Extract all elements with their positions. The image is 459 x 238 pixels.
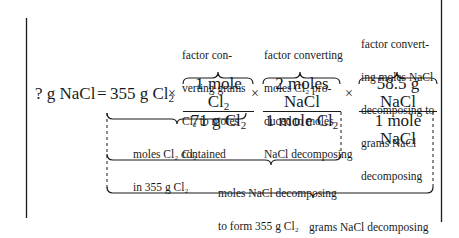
bottom-note-3: grams NaCl decomposing to produce 355 g …	[309, 200, 428, 238]
factor-1: 1 mole Cl2 71 g Cl2	[183, 75, 254, 130]
note-line: factor convert-	[361, 39, 434, 50]
note-line: moles Cl₂ contained	[133, 149, 226, 160]
factor-3-denominator: 1 mole NaCl	[359, 112, 437, 148]
den-text: 1 mole Cl	[266, 111, 333, 130]
den-sub: 2	[241, 119, 247, 131]
num-text: 2 moles NaCl	[275, 74, 328, 111]
den-text: 1 mole NaCl	[375, 111, 422, 148]
equals-sign: =	[97, 85, 107, 103]
den-sub: 2	[333, 119, 339, 131]
note-line: factor con-	[182, 50, 246, 61]
note-line: decomposing	[361, 171, 434, 182]
given-quantity: 355 g Cl2	[110, 85, 174, 103]
num-text: 58.5 g NaCl	[377, 74, 420, 111]
note-line: factor converting	[264, 50, 352, 61]
factor-3: 58.5 g NaCl 1 mole NaCl	[359, 75, 437, 148]
times-text: ×	[251, 86, 259, 101]
bottom-note-1: moles Cl₂ contained in 355 g Cl₂	[133, 127, 226, 204]
factor-2: 2 moles NaCl 1 mole Cl2	[263, 75, 341, 130]
times-text: ×	[345, 86, 353, 101]
times-text: ×	[168, 86, 176, 101]
note-line: moles NaCl decomposing	[218, 188, 337, 199]
factor-1-numerator: 1 mole Cl2	[183, 75, 254, 112]
note-line: in 355 g Cl₂	[133, 182, 226, 193]
equation-lhs: ? g NaCl	[35, 85, 95, 103]
num-text: 1 mole Cl	[195, 74, 242, 111]
equals-text: =	[97, 84, 107, 103]
factor-3-numerator: 58.5 g NaCl	[359, 75, 437, 112]
note-line: grams NaCl decomposing	[309, 222, 428, 233]
times-sign-3: ×	[345, 85, 353, 103]
unknown-term: ? g NaCl	[35, 84, 95, 103]
factor-2-denominator: 1 mole Cl2	[263, 112, 341, 130]
times-sign-2: ×	[251, 85, 259, 103]
factor-2-numerator: 2 moles NaCl	[263, 75, 341, 112]
times-sign-1: ×	[168, 85, 176, 103]
given-text: 355 g Cl	[110, 84, 169, 103]
note-line: NaCl decomposing	[264, 149, 352, 160]
